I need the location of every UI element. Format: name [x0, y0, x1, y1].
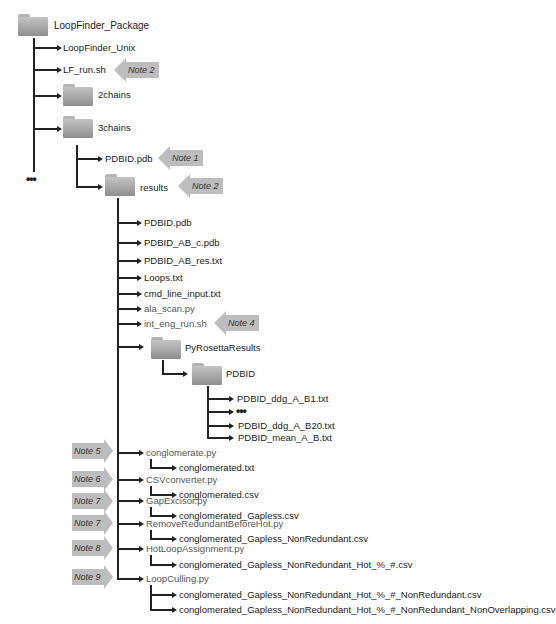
folder-2chains: 2chains [98, 89, 131, 101]
file-loopfinder-unix: LoopFinder_Unix [63, 42, 135, 54]
arrow-icon [57, 67, 62, 73]
folder-icon [192, 363, 222, 385]
arrow-icon [57, 45, 62, 51]
file-item: PDBID_AB_res.txt [144, 255, 222, 267]
arrow-icon [139, 344, 144, 350]
file-mean: PDBID_mean_A_B.txt [238, 432, 332, 444]
file-item: Loops.txt [144, 272, 183, 284]
output-file: conglomerated_Gapless_NonRedundant_Hot_%… [179, 559, 412, 571]
connector [117, 222, 137, 224]
arrow-icon [183, 371, 188, 377]
file-lf-run: LF_run.sh [63, 64, 106, 76]
connector [207, 398, 229, 400]
arrow-icon [137, 291, 142, 297]
folder-icon [18, 14, 48, 36]
connector [117, 308, 137, 310]
script-file: conglomerate.py [146, 447, 216, 459]
connector [117, 500, 139, 502]
folder-icon [105, 174, 135, 196]
arrow-icon [172, 465, 177, 471]
connector [117, 260, 137, 262]
script-file: RemoveRedundantBeforeHot.py [146, 518, 283, 530]
script-file: GapExcisor.py [146, 495, 207, 507]
connector [150, 594, 172, 596]
connector [162, 373, 183, 375]
script-file: LoopCulling.py [146, 573, 209, 585]
file-item: cmd_line_input.txt [144, 288, 221, 300]
connector [76, 158, 98, 160]
arrow-icon [137, 275, 142, 281]
connector [207, 425, 229, 427]
connector [150, 467, 172, 469]
arrow-icon [229, 423, 234, 429]
connector [207, 411, 229, 413]
tree-line [33, 38, 35, 172]
file-item: PDBID.pdb [144, 217, 192, 229]
connector [117, 479, 139, 481]
script-file: HotLoopAssignment.py [146, 543, 244, 555]
arrow-icon [98, 156, 103, 162]
more-items-ellipsis: ••• [236, 404, 246, 418]
folder-icon [151, 337, 181, 359]
arrow-icon [137, 220, 142, 226]
arrow-icon [57, 126, 62, 132]
folder-icon [63, 116, 93, 138]
arrow-icon [137, 258, 142, 264]
connector [150, 564, 172, 566]
connector [33, 128, 57, 130]
arrow-icon [139, 576, 144, 582]
connector [117, 578, 139, 580]
connector [76, 186, 98, 188]
connector [117, 277, 137, 279]
arrow-icon [139, 521, 144, 527]
arrow-icon [137, 240, 142, 246]
folder-pdbid: PDBID [226, 368, 255, 380]
connector [207, 437, 229, 439]
tree-line [150, 585, 152, 611]
connector [150, 538, 172, 540]
connector [117, 293, 137, 295]
file-pdbid-pdb: PDBID.pdb [105, 153, 153, 165]
connector [150, 609, 172, 611]
output-file: conglomerated_Gapless_NonRedundant_Hot_%… [179, 604, 556, 616]
folder-results: results [140, 182, 168, 194]
connector [33, 47, 57, 49]
connector [150, 515, 172, 517]
arrow-icon [139, 477, 144, 483]
arrow-icon [172, 592, 177, 598]
connector [117, 452, 139, 454]
connector [117, 523, 139, 525]
arrow-icon [139, 546, 144, 552]
file-ddg: PDBID_ddg_A_B1.txt [237, 393, 328, 405]
folder-icon [63, 84, 93, 106]
arrow-icon [98, 184, 103, 190]
connector [117, 323, 137, 325]
arrow-icon [172, 562, 177, 568]
folder-pyrosettaresults: PyRosettaResults [185, 342, 261, 354]
file-item: ala_scan.py [144, 303, 195, 315]
arrow-icon [137, 306, 142, 312]
connector [33, 69, 57, 71]
more-items-ellipsis: ••• [26, 172, 36, 186]
tree-line [76, 145, 78, 187]
connector [33, 95, 57, 97]
arrow-icon [139, 450, 144, 456]
arrow-icon [172, 607, 177, 613]
arrow-icon [57, 93, 62, 99]
connector [117, 346, 139, 348]
root-folder-label: LoopFinder_Package [54, 20, 149, 32]
arrow-icon [139, 498, 144, 504]
output-file: conglomerated.txt [179, 462, 255, 474]
arrow-icon [229, 396, 234, 402]
script-file: CSVconverter.py [146, 474, 217, 486]
file-ddg: PDBID_ddg_A_B20.txt [238, 420, 335, 432]
file-item: PDBID_AB_c.pdb [144, 237, 220, 249]
output-file: conglomerated_Gapless_NonRedundant_Hot_%… [179, 589, 482, 601]
file-item: int_eng_run.sh [144, 318, 207, 330]
connector [117, 548, 139, 550]
folder-3chains: 3chains [98, 122, 131, 134]
connector [117, 242, 137, 244]
arrow-icon [137, 321, 142, 327]
arrow-icon [172, 536, 177, 542]
arrow-icon [229, 435, 234, 441]
